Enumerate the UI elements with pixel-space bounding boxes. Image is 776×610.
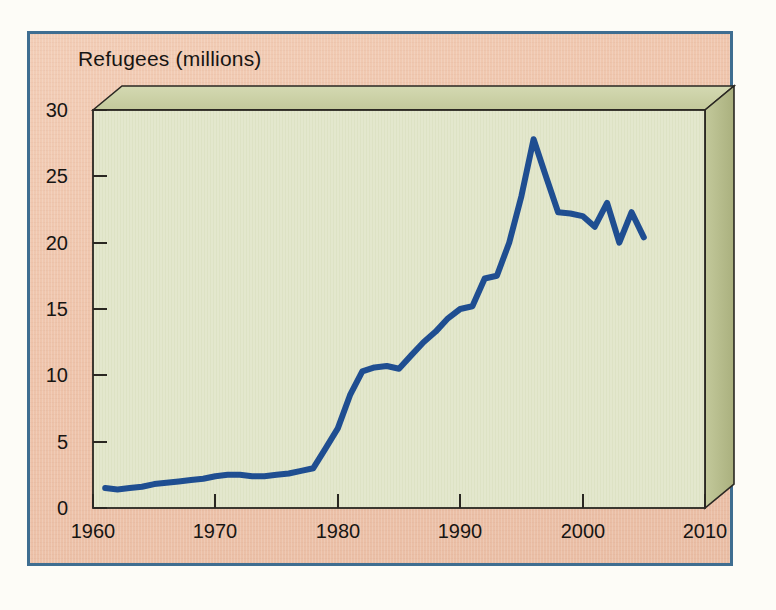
y-tick-label-25: 25	[22, 165, 68, 188]
page-root: Refugees (millions)	[0, 0, 776, 610]
y-tick-label-15: 15	[22, 298, 68, 321]
y-tick-label-0: 0	[22, 497, 68, 520]
x-tick-label-1970: 1970	[180, 520, 250, 543]
x-tick-label-1960: 1960	[58, 520, 128, 543]
y-tick-label-5: 5	[22, 431, 68, 454]
chart-canvas	[0, 0, 776, 610]
x-tick-label-2000: 2000	[548, 520, 618, 543]
x-tick-label-1990: 1990	[425, 520, 495, 543]
y-tick-label-20: 20	[22, 232, 68, 255]
y-tick-label-30: 30	[22, 99, 68, 122]
plot-top-face	[93, 86, 734, 110]
y-tick-label-10: 10	[22, 364, 68, 387]
x-tick-label-2010: 2010	[670, 520, 740, 543]
x-tick-label-1980: 1980	[303, 520, 373, 543]
plot-face	[93, 110, 705, 508]
plot-side-face	[705, 86, 734, 508]
